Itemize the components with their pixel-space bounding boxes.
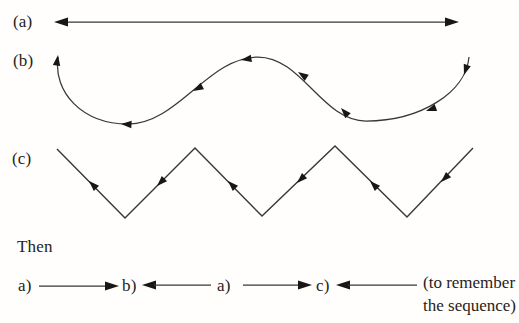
wave-path [57,57,469,124]
zigzag-path [57,146,473,218]
arrowhead-right-icon [105,281,119,290]
row-a-label: (a) [13,12,32,32]
arrowhead-upleft-icon [338,106,351,119]
sequence-item-b: b) [122,276,137,296]
sequence-item-c: c) [316,276,330,296]
row-b-label: (b) [13,51,33,71]
wave-curve [53,54,471,128]
double-headed-arrow-line [54,17,459,26]
arrowhead-left-icon [142,280,156,289]
arrowhead-right-icon [445,17,459,26]
sequence-note: (to remember the sequence) [423,271,516,317]
arrowhead-down-icon [460,64,470,76]
sequence-note-line1: (to remember [423,271,516,294]
arrowhead-left-icon [121,120,132,128]
sequence-note-line2: the sequence) [423,294,516,317]
arrowhead-up-icon [53,54,62,65]
row-c-label: (c) [12,149,31,169]
arrowhead-left-icon [336,280,350,289]
zigzag-line [57,146,473,218]
figure-page: (a) (b) (c) Then a) b) a) c) (to remembe… [0,0,519,323]
sequence-item-a2: a) [217,276,231,296]
arrowhead-left-icon [54,17,68,26]
then-label: Then [17,237,53,257]
arrowhead-right-icon [298,280,312,289]
arrowhead-downleft-icon [191,83,204,94]
sequence-item-a1: a) [18,276,32,296]
